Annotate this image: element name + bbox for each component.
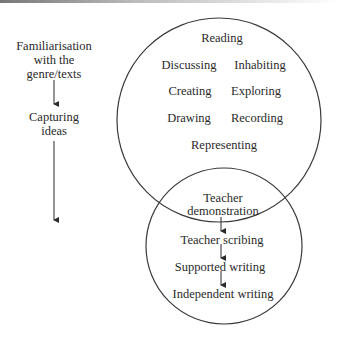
item-drawing: Drawing: [167, 111, 211, 125]
step-teacher-demonstration-line1: Teacher: [203, 191, 242, 205]
step-independent-writing: Independent writing: [172, 287, 273, 301]
capturing-line2: ideas: [41, 124, 67, 138]
capturing-line1: Capturing: [29, 110, 79, 124]
item-representing: Representing: [191, 138, 257, 152]
item-exploring: Exploring: [231, 84, 281, 98]
familiarisation-line3: genre/texts: [27, 67, 82, 81]
step-teacher-scribing: Teacher scribing: [181, 233, 264, 247]
familiarisation-line2: with the: [34, 53, 75, 67]
item-discussing: Discussing: [162, 58, 217, 72]
item-recording: Recording: [231, 111, 283, 125]
step-supported-writing: Supported writing: [175, 260, 266, 274]
familiarisation-line1: Familiarisation: [16, 39, 92, 53]
item-reading: Reading: [201, 31, 243, 45]
item-inhabiting: Inhabiting: [234, 58, 285, 72]
item-creating: Creating: [168, 84, 211, 98]
step-teacher-demonstration-line2: demonstration: [187, 204, 259, 218]
